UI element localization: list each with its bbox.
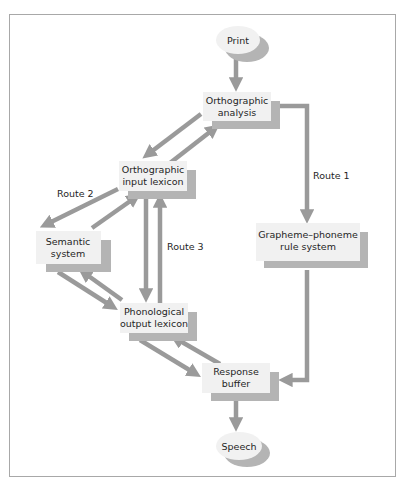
dual-route-reading-diagram: Print Orthographic analysis Orthographic… bbox=[0, 0, 406, 487]
grapheme-phoneme-label-1: Grapheme–phoneme bbox=[258, 229, 358, 240]
node-orthographic-analysis: Orthographic analysis bbox=[203, 92, 280, 129]
orth-analysis-label-1: Orthographic bbox=[206, 95, 269, 106]
node-response-buffer: Response buffer bbox=[202, 363, 279, 401]
node-semantic-system: Semantic system bbox=[36, 231, 111, 272]
speech-label: Speech bbox=[222, 441, 257, 452]
grapheme-phoneme-label-2: rule system bbox=[280, 241, 336, 252]
arrow-semantic-to-input-lexicon bbox=[92, 197, 136, 228]
node-speech: Speech bbox=[216, 432, 270, 467]
orth-input-lexicon-label-2: input lexicon bbox=[122, 176, 183, 187]
arrow-response-buffer-to-phon-lexicon bbox=[175, 338, 220, 364]
node-orthographic-input-lexicon: Orthographic input lexicon bbox=[119, 161, 196, 199]
phon-output-lexicon-label-2: output lexicon bbox=[120, 318, 188, 329]
print-label: Print bbox=[227, 35, 249, 46]
semantic-label-1: Semantic bbox=[46, 236, 91, 247]
arrow-phon-lexicon-to-semantic bbox=[83, 272, 122, 300]
route-1-label: Route 1 bbox=[313, 170, 350, 181]
orth-analysis-label-2: analysis bbox=[218, 107, 257, 118]
response-buffer-label-2: buffer bbox=[222, 378, 250, 389]
route-2-label: Route 2 bbox=[57, 188, 94, 199]
semantic-label-2: system bbox=[51, 248, 85, 259]
arrow-orth-analysis-to-input-lexicon bbox=[147, 114, 201, 155]
node-print: Print bbox=[216, 26, 269, 62]
response-buffer-label-1: Response bbox=[213, 366, 259, 377]
node-grapheme-phoneme-rule-system: Grapheme–phoneme rule system bbox=[256, 223, 368, 268]
phon-output-lexicon-label-1: Phonological bbox=[124, 306, 184, 317]
arrow-grapheme-phoneme-to-response-buffer bbox=[284, 270, 307, 380]
node-phonological-output-lexicon: Phonological output lexicon bbox=[120, 303, 197, 341]
route-3-label: Route 3 bbox=[167, 241, 204, 252]
orth-input-lexicon-label-1: Orthographic bbox=[122, 164, 185, 175]
